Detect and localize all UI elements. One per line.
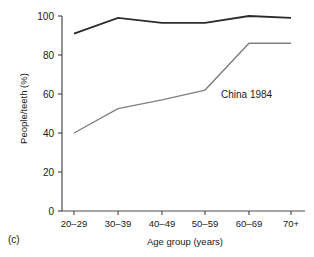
y-tick-label: 40	[43, 128, 55, 139]
panel-label: (c)	[8, 234, 20, 245]
x-tick-label: 30–39	[105, 218, 131, 229]
y-tick-label: 80	[43, 50, 55, 61]
x-tick-label: 50–59	[192, 218, 218, 229]
y-tick-label: 60	[43, 89, 55, 100]
x-tick-label: 20–29	[61, 218, 87, 229]
data-series-group	[74, 16, 291, 133]
x-axis-title: Age group (years)	[60, 236, 310, 247]
axis-lines	[62, 16, 305, 211]
series-line-people	[74, 16, 291, 34]
y-tick-label: 20	[43, 167, 55, 178]
y-tick-label: 100	[37, 11, 54, 22]
x-tick-label: 60–69	[236, 218, 262, 229]
x-tick-label: 40–49	[149, 218, 175, 229]
chart-annotations: China 1984	[221, 89, 273, 100]
x-tick-label: 70+	[283, 218, 300, 229]
y-tick-label: 0	[48, 206, 54, 217]
figure-panel: People/teeth (%) 020406080100 20–2930–39…	[0, 0, 314, 257]
y-axis-ticks: 020406080100	[37, 11, 62, 217]
line-chart-plot: 020406080100 20–2930–3940–4950–5960–6970…	[0, 0, 314, 257]
x-axis-ticks: 20–2930–3940–4950–5960–6970+	[61, 211, 300, 229]
annotation-label: China 1984	[221, 89, 273, 100]
